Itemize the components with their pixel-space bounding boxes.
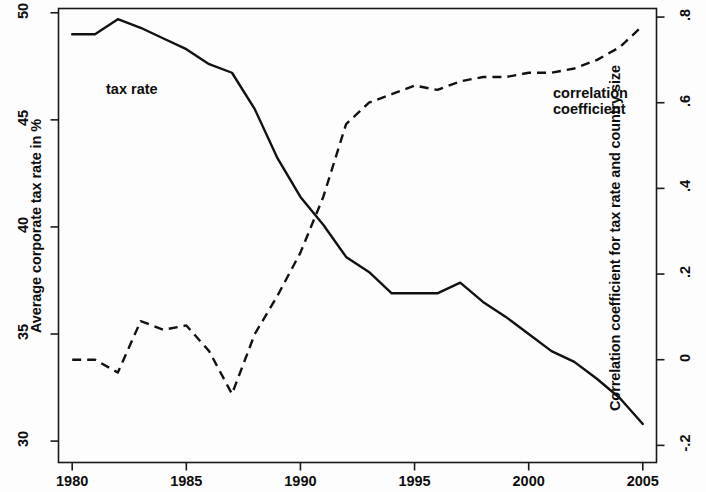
bottom-tick-label-2005: 2005 [613, 473, 673, 489]
bottom-tick-label-2000: 2000 [499, 473, 559, 489]
left-tick-label-40: 40 [15, 208, 31, 242]
right-axis-ticks [657, 17, 665, 445]
series-line-tax-rate [72, 19, 643, 424]
right-tick-label-.8: .8 [677, 0, 693, 32]
left-tick-label-45: 45 [15, 101, 31, 135]
right-tick-label-.4: .4 [677, 169, 693, 203]
bottom-tick-label-1985: 1985 [156, 473, 216, 489]
left-tick-label-30: 30 [15, 422, 31, 456]
chart-figure: Average corporate tax rate in % Correlat… [0, 0, 706, 492]
right-tick-label-0: 0 [677, 341, 693, 375]
bottom-tick-label-1990: 1990 [270, 473, 330, 489]
series-annotation-correlation: correlation coefficient [553, 85, 628, 117]
bottom-tick-label-1995: 1995 [385, 473, 445, 489]
left-axis-ticks [51, 13, 59, 441]
right-axis-title: Correlation coefficient for tax rate and… [607, 3, 623, 473]
left-tick-label-50: 50 [15, 0, 31, 28]
bottom-tick-label-1980: 1980 [42, 473, 102, 489]
bottom-axis-ticks [72, 463, 643, 471]
right-tick-label-.6: .6 [677, 84, 693, 118]
plot-frame [59, 9, 657, 463]
series-annotation-tax-rate: tax rate [106, 81, 158, 97]
left-tick-label-35: 35 [15, 315, 31, 349]
right-tick-label-.2: .2 [677, 255, 693, 289]
plot-area [0, 0, 706, 492]
right-tick-label--.2: -.2 [677, 426, 693, 460]
series-line-correlation [72, 26, 643, 394]
